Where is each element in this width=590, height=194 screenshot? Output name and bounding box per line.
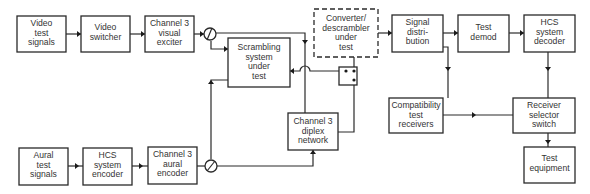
wire-diplex-to-switch [338,80,354,132]
block-label: Compatibility [391,100,441,110]
block-label: aural [163,159,182,169]
block-channel3-visual-exciter: Channel 3visualexciter [145,16,194,52]
svg-text:Signaldistri-bution: Signaldistri-bution [406,17,430,46]
block-receiver-selector-switch: Receiverselectorswitch [513,98,575,133]
arrow-icon [545,140,551,144]
block-label: system [94,160,121,170]
block-label: switch [532,119,556,129]
block-label: under [335,32,357,42]
wire-aural-splitter-to-diplex [217,150,313,166]
block-label: Channel 3 [150,18,189,28]
block-channel3-aural-encoder: Channel 3auralencoder [148,147,197,184]
block-label: signals [30,169,57,179]
block-label: Signal [406,17,430,27]
block-label: HCS [540,17,558,27]
block-hcs-system-decoder: HCSsystemdecoder [524,15,575,52]
block-label: descrambler [322,23,369,33]
block-label: encoder [157,168,188,178]
block-hcs-system-encoder: HCSsystemencoder [83,148,132,185]
block-label: Converter/ [326,13,367,23]
block-label: network [298,135,329,145]
block-converter-descrambler: Converter/descramblerundertest [314,9,378,57]
block-video-switcher: Videoswitcher [81,16,130,52]
block-label: diplex [302,126,325,136]
block-label: test [252,71,266,81]
block-test-equipment: Testequipment [524,147,575,183]
block-label: test [37,160,51,170]
block-label: under [248,61,270,71]
block-compatibility-test-receivers: Compatibilitytestreceivers [389,98,443,133]
block-label: visual [159,28,181,38]
switch-contact-icon [352,69,355,72]
block-diagram: Videotestsignals Videoswitcher Channel 3… [0,0,590,194]
block-label: selector [529,110,559,120]
block-label: Receiver [527,100,561,110]
block-video-test-signals: Videotestsignals [17,16,66,52]
block-label: Video [95,22,117,32]
block-label: Channel 3 [153,149,192,159]
block-label: switcher [90,32,122,42]
block-label: Scrambling [238,42,281,52]
block-label: demod [470,32,496,42]
arrow-icon [139,163,143,169]
arrow-icon [472,112,476,118]
block-label: Test [542,153,558,163]
block-label: Test [476,22,492,32]
block-scrambling-system: Scramblingsystemundertest [228,38,290,87]
aural-splitter [205,160,217,172]
block-test-demod: Testdemod [458,15,509,52]
block-label: Channel 3 [293,116,332,126]
arrow-icon [75,163,79,169]
wire-aural-splitter-to-scrambler [211,80,228,159]
block-label: HCS [98,150,116,160]
wire-scrambler-to-switch [290,66,346,71]
block-label: test [409,110,423,120]
block-aural-test-signals: Auraltestsignals [19,148,68,185]
block-label: system [245,52,272,62]
block-label: system [536,27,563,37]
switch-contact-icon [344,69,347,72]
block-label: encoder [92,169,123,179]
block-label: bution [406,36,430,46]
arrow-icon [445,67,451,71]
block-label: equipment [529,163,570,173]
arrow-icon [302,40,308,44]
block-label: exciter [157,37,182,47]
wire-distribution-to-compat [443,47,448,98]
block-label: distri- [407,27,428,37]
block-label: receivers [399,119,434,129]
block-channel3-diplex-network: Channel 3diplexnetwork [288,113,338,150]
block-label: signals [28,37,55,47]
block-label: decoder [534,36,565,46]
switch-contact-icon [352,78,355,81]
arrow-icon [545,67,551,71]
block-label: test [339,42,353,52]
block-signal-distribution: Signaldistri-bution [392,15,443,52]
block-label: test [35,28,49,38]
block-label: Aural [33,150,53,160]
block-label: Video [31,18,53,28]
visual-splitter [204,28,216,40]
bypass-switch [339,67,357,85]
